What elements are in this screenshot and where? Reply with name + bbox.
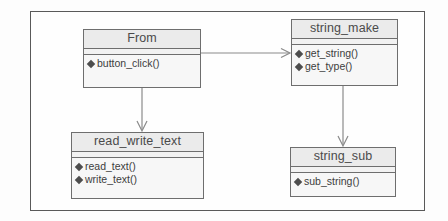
diamond-bullet-icon	[75, 162, 83, 170]
uml-class-from[interactable]: From button_click()	[83, 29, 201, 88]
method-row[interactable]: write_text()	[76, 173, 203, 186]
diamond-bullet-icon	[295, 49, 303, 57]
diagram-frame: From button_click() string_make get_stri…	[30, 11, 425, 211]
diamond-bullet-icon	[295, 62, 303, 70]
class-methods-read-write-text: read_text() write_text()	[72, 158, 203, 198]
class-name-read-write-text: read_write_text	[72, 133, 203, 152]
class-methods-string-sub: sub_string()	[291, 173, 395, 196]
uml-class-string-make[interactable]: string_make get_string() get_type()	[291, 19, 398, 86]
diamond-bullet-icon	[87, 59, 95, 67]
class-methods-string-make: get_string() get_type()	[292, 45, 397, 85]
method-label: read_text()	[85, 160, 136, 173]
method-row[interactable]: sub_string()	[295, 175, 395, 188]
method-label: button_click()	[97, 57, 159, 70]
class-name-string-sub: string_sub	[291, 148, 395, 167]
connector-from-to-read-write-text[interactable]	[137, 88, 147, 131]
method-row[interactable]: get_string()	[296, 47, 397, 60]
connector-string-make-to-string-sub[interactable]	[338, 86, 348, 146]
class-name-string-make: string_make	[292, 20, 397, 39]
class-methods-from: button_click()	[84, 55, 200, 87]
method-row[interactable]: button_click()	[88, 57, 200, 70]
method-row[interactable]: get_type()	[296, 60, 397, 73]
uml-class-string-sub[interactable]: string_sub sub_string()	[290, 147, 396, 197]
method-label: sub_string()	[304, 175, 359, 188]
method-label: get_type()	[305, 60, 352, 73]
class-name-from: From	[84, 30, 200, 49]
diamond-bullet-icon	[294, 177, 302, 185]
uml-class-read-write-text[interactable]: read_write_text read_text() write_text()	[71, 132, 204, 199]
method-label: write_text()	[85, 173, 137, 186]
method-row[interactable]: read_text()	[76, 160, 203, 173]
diamond-bullet-icon	[75, 175, 83, 183]
method-label: get_string()	[305, 47, 358, 60]
connector-from-to-string-make[interactable]	[201, 49, 290, 58]
